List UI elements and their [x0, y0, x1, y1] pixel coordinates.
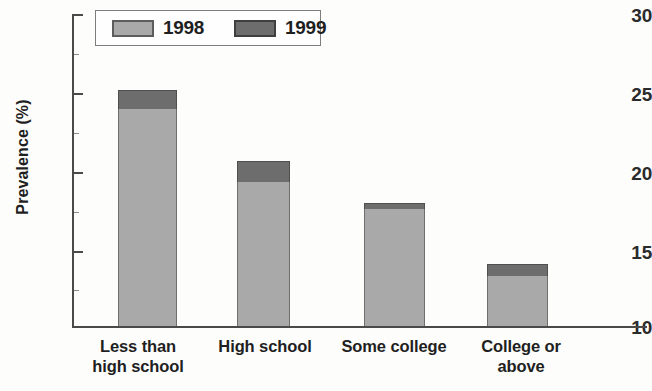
bar-less-than-high-school	[118, 90, 177, 326]
x-category-label-line-2: high school	[82, 356, 194, 376]
x-category-label-line-2: above	[460, 356, 582, 376]
chart-legend: 1998 1999	[95, 10, 321, 46]
bar-segment-1999-college-or-above	[487, 264, 548, 276]
legend-entry-1998: 1998	[112, 17, 204, 39]
x-category-label-line-1: Some college	[330, 336, 458, 356]
x-category-label-high-school: High school	[203, 336, 327, 356]
legend-label-1998: 1998	[163, 17, 204, 39]
y-axis-title: Prevalence (%)	[14, 42, 32, 272]
bar-some-college	[364, 203, 425, 326]
x-category-label-college-or-above: College or above	[460, 336, 582, 376]
x-axis-line	[72, 326, 647, 328]
bar-high-school	[237, 161, 290, 326]
chart-figure: Prevalence (%) 30 25 20 15 10	[0, 0, 652, 391]
bar-segment-1998-less-than-high-school	[118, 109, 177, 326]
legend-entry-1999: 1999	[234, 17, 326, 39]
bar-segment-1999-high-school	[237, 161, 290, 183]
bar-segment-1999-less-than-high-school	[118, 90, 177, 109]
x-category-label-line-1: College or	[460, 336, 582, 356]
legend-swatch-1999-icon	[234, 20, 276, 37]
plot-area	[73, 14, 633, 326]
x-category-label-line-1: Less than	[82, 336, 194, 356]
legend-swatch-1998-icon	[112, 20, 154, 37]
legend-label-1999: 1999	[285, 17, 326, 39]
bar-segment-1998-some-college	[364, 209, 425, 326]
bar-segment-1998-college-or-above	[487, 276, 548, 326]
x-category-label-less-than-high-school: Less than high school	[82, 336, 194, 376]
bar-college-or-above	[487, 264, 548, 326]
x-category-label-line-1: High school	[203, 336, 327, 356]
x-category-label-some-college: Some college	[330, 336, 458, 356]
bar-segment-1998-high-school	[237, 182, 290, 326]
